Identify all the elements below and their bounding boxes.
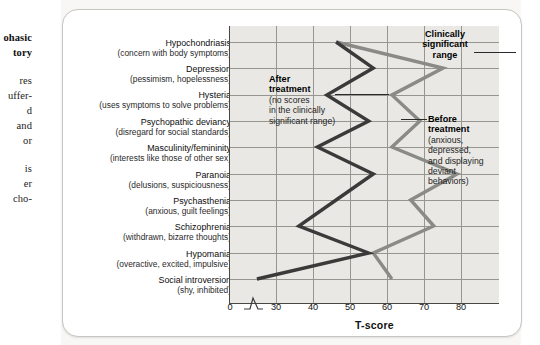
category-label-9: Hypomania (overactive, excited, impulsiv… [65,249,231,269]
category-desc-2: (pessimism, hopelessness) [65,74,231,84]
x-tick-30: 30 [265,302,287,312]
category-desc-8: (withdrawn, bizarre thoughts) [65,232,231,242]
left-body-line-8: cho- [13,193,32,204]
annotation-before-treatment-sub: (anxious,depressed,and displayingdeviant… [428,135,510,187]
x-tick-60: 60 [376,302,398,312]
left-body-line-6: is [25,163,32,174]
category-label-1: Hypochondriasis (concern with body sympt… [65,38,231,58]
category-name-10: Social introversion [65,275,231,285]
category-desc-5: (interests like those of other sex) [65,153,231,163]
left-text-column: ohasic tory res uffer- d and or is er ch… [0,0,34,345]
left-body-line-3: d [27,105,32,116]
category-name-6: Paranoia [65,170,231,180]
x-tick-80: 80 [450,302,472,312]
category-name-7: Psychasthenia [65,196,231,206]
left-heading-line-2: tory [13,47,32,58]
category-desc-7: (anxious, guilt feelings) [65,206,231,216]
category-desc-1: (concern with body symptoms) [65,48,231,58]
leader-after-treatment [335,94,389,95]
category-name-3: Hysteria [65,90,231,100]
category-desc-6: (delusions, suspiciousness) [65,180,231,190]
left-body-line-4: and [17,120,32,131]
category-label-7: Psychasthenia (anxious, guilt feelings) [65,196,231,216]
category-desc-9: (overactive, excited, impulsive) [65,259,231,269]
left-body-line-5: or [23,135,32,146]
left-body-line-1: res [19,75,32,86]
annotation-before-treatment: Beforetreatment (anxious,depressed,and d… [428,114,510,187]
category-desc-4: (disregard for social standards) [65,127,231,137]
category-name-4: Psychopathic deviancy [65,117,231,127]
x-tick-70: 70 [413,302,435,312]
category-desc-3: (uses symptoms to solve problems) [65,100,231,110]
category-label-8: Schizophrenia (withdrawn, bizarre though… [65,222,231,242]
category-label-5: Masculinity/femininity (interests like t… [65,143,231,163]
annotation-after-treatment-sub: (no scoresin the clinicallysignificant r… [269,95,355,126]
x-tick-0: 0 [219,302,241,312]
category-desc-10: (shy, inhibited) [65,285,231,295]
annotation-after-treatment-title: Aftertreatment [269,74,355,95]
leader-clinically-significant [474,52,516,53]
category-label-group: Hypochondriasis (concern with body sympt… [63,10,231,336]
category-label-6: Paranoia (delusions, suspiciousness) [65,170,231,190]
category-label-10: Social introversion (shy, inhibited) [65,275,231,295]
x-tick-50: 50 [339,302,361,312]
annotation-after-treatment: Aftertreatment (no scoresin the clinical… [269,74,355,126]
category-label-2: Depression (pessimism, hopelessness) [65,64,231,84]
left-body-line-2: uffer- [8,90,32,101]
category-label-3: Hysteria (uses symptoms to solve problem… [65,90,231,110]
category-name-2: Depression [65,64,231,74]
annotation-before-treatment-title: Beforetreatment [428,114,510,135]
leader-before-treatment [401,119,427,120]
left-body-line-7: er [24,178,32,189]
annotation-clinically-significant-title: Clinicallysignificantrange [407,29,483,60]
category-name-8: Schizophrenia [65,222,231,232]
category-name-5: Masculinity/femininity [65,143,231,153]
figure-panel: Hypochondriasis (concern with body sympt… [62,9,522,337]
category-name-1: Hypochondriasis [65,38,231,48]
x-tick-40: 40 [302,302,324,312]
category-name-9: Hypomania [65,249,231,259]
x-axis-title: T-score [355,319,394,331]
annotation-clinically-significant: Clinicallysignificantrange [407,29,483,60]
left-heading-line-1: ohasic [3,32,32,43]
category-label-4: Psychopathic deviancy (disregard for soc… [65,117,231,137]
